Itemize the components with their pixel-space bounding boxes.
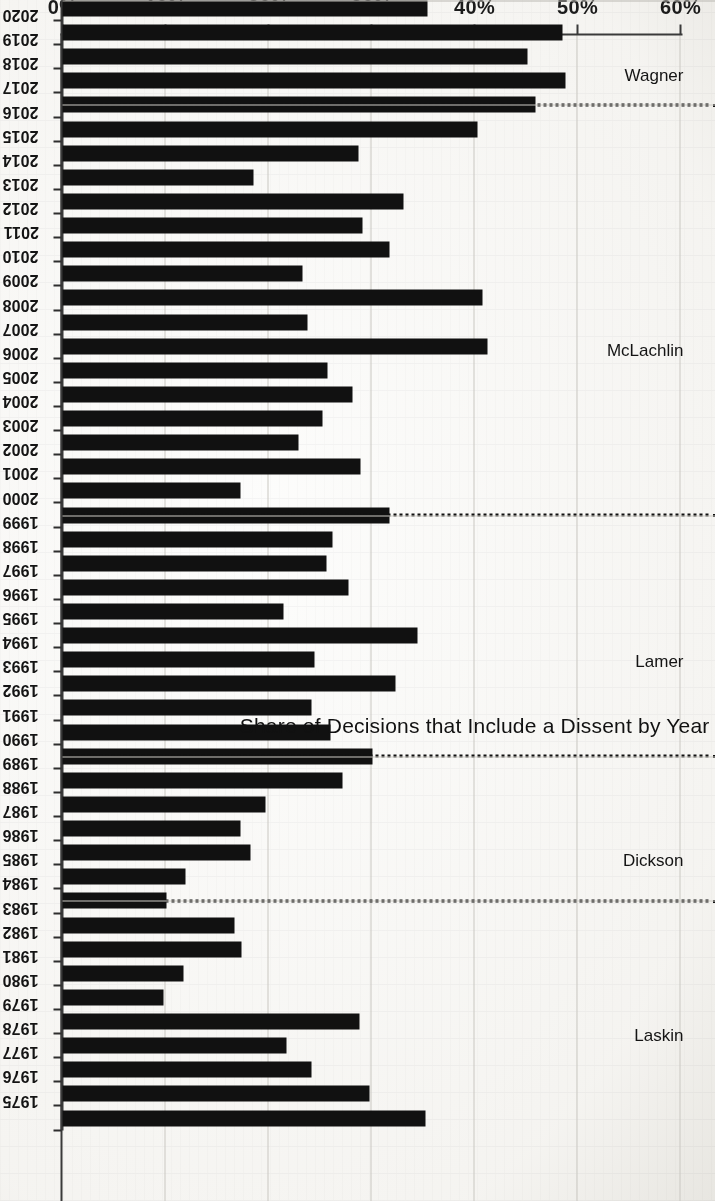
- bar-1976: [62, 1085, 369, 1101]
- era-label-dickson: Dickson: [623, 850, 683, 870]
- category-tick-1981: [53, 984, 61, 986]
- category-label-1992: 1992: [2, 680, 38, 698]
- bar-1977: [62, 1061, 311, 1077]
- category-label-1983: 1983: [2, 898, 38, 916]
- category-label-1988: 1988: [2, 777, 38, 795]
- category-tick-1978: [53, 1056, 61, 1058]
- category-tick-1994: [53, 670, 61, 672]
- category-tick-1983: [53, 936, 61, 938]
- era-label-lamer: Lamer: [635, 651, 683, 671]
- category-tick-1977: [53, 1080, 61, 1082]
- era-boundary-line-2000: [62, 515, 715, 516]
- category-tick-1995: [53, 646, 61, 648]
- bar-2014: [62, 169, 253, 185]
- category-label-2005: 2005: [2, 367, 38, 385]
- category-label-2003: 2003: [2, 415, 38, 433]
- bar-1992: [62, 699, 311, 715]
- bar-1993: [62, 675, 395, 691]
- category-tick-2007: [53, 357, 61, 359]
- category-label-1982: 1982: [2, 922, 38, 940]
- bar-1995: [62, 627, 417, 643]
- category-label-1993: 1993: [2, 656, 38, 674]
- category-label-2006: 2006: [2, 343, 38, 361]
- category-tick-2013: [53, 212, 61, 214]
- category-tick-1999: [53, 550, 61, 552]
- era-label-wagner: Wagner: [624, 66, 683, 86]
- bar-1986: [62, 844, 250, 860]
- category-tick-2014: [53, 188, 61, 190]
- chart-title: Share of Decisions that Include a Dissen…: [239, 714, 709, 738]
- bar-2001: [62, 482, 240, 498]
- bar-1988: [62, 796, 265, 812]
- bar-1989: [62, 772, 342, 788]
- category-tick-1985: [53, 887, 61, 889]
- gridline-40%: [474, 33, 475, 1201]
- category-tick-1997: [53, 598, 61, 600]
- category-label-2000: 2000: [2, 488, 38, 506]
- value-axis-label-40%: 40%: [454, 0, 495, 18]
- category-label-2010: 2010: [2, 246, 38, 264]
- category-label-2011: 2011: [3, 222, 38, 240]
- category-tick-2004: [53, 429, 61, 431]
- value-tick-mark-60%: [679, 24, 681, 34]
- category-label-1990: 1990: [2, 729, 38, 747]
- bar-2016: [62, 121, 477, 137]
- bar-1996: [62, 603, 283, 619]
- era-label-laskin: Laskin: [634, 1026, 683, 1046]
- category-tick-2005: [53, 405, 61, 407]
- bar-2020: [62, 24, 562, 40]
- category-tick-2017: [53, 116, 61, 118]
- category-label-1999: 1999: [2, 512, 38, 530]
- category-label-2009: 2009: [2, 270, 38, 288]
- bar-2021: [62, 0, 427, 16]
- category-label-2004: 2004: [2, 391, 38, 409]
- bar-2011: [62, 241, 389, 257]
- category-tick-2001: [53, 501, 61, 503]
- bar-2019: [62, 48, 527, 64]
- bar-1982: [62, 941, 241, 957]
- category-label-2002: 2002: [2, 439, 38, 457]
- category-label-1991: 1991: [2, 705, 38, 723]
- era-boundary-line-1990: [62, 756, 715, 757]
- bar-2018: [62, 72, 565, 88]
- category-tick-1979: [53, 1032, 61, 1034]
- bar-1987: [62, 820, 240, 836]
- bar-2008: [62, 314, 307, 330]
- bar-2010: [62, 265, 302, 281]
- bar-2004: [62, 410, 322, 426]
- bar-1978: [62, 1037, 286, 1053]
- category-tick-1980: [53, 1008, 61, 1010]
- category-tick-1991: [53, 743, 61, 745]
- category-tick-1986: [53, 863, 61, 865]
- category-label-1985: 1985: [2, 849, 38, 867]
- bar-1980: [62, 989, 163, 1005]
- category-tick-1975: [53, 1129, 61, 1131]
- bar-1975: [62, 1110, 425, 1126]
- bar-1998: [62, 555, 326, 571]
- category-label-2013: 2013: [2, 174, 38, 192]
- category-label-1977: 1977: [2, 1042, 38, 1060]
- bar-1999: [62, 531, 332, 547]
- category-tick-2020: [53, 43, 61, 45]
- category-tick-2003: [53, 453, 61, 455]
- category-tick-2006: [53, 381, 61, 383]
- category-tick-1992: [53, 719, 61, 721]
- category-label-1996: 1996: [2, 584, 38, 602]
- category-label-1986: 1986: [2, 825, 38, 843]
- category-tick-2011: [53, 260, 61, 262]
- category-tick-2000: [53, 526, 61, 528]
- bar-2003: [62, 434, 298, 450]
- category-label-2018: 2018: [2, 53, 38, 71]
- bar-1994: [62, 651, 314, 667]
- category-label-2015: 2015: [2, 126, 38, 144]
- bar-1997: [62, 579, 348, 595]
- category-label-1989: 1989: [2, 753, 38, 771]
- category-tick-1984: [53, 912, 61, 914]
- category-label-2008: 2008: [2, 295, 38, 313]
- era-boundary-line-1984: [62, 900, 715, 901]
- category-tick-2012: [53, 236, 61, 238]
- category-label-2019: 2019: [2, 29, 38, 47]
- bar-2002: [62, 458, 360, 474]
- category-label-1987: 1987: [2, 801, 38, 819]
- category-tick-1989: [53, 791, 61, 793]
